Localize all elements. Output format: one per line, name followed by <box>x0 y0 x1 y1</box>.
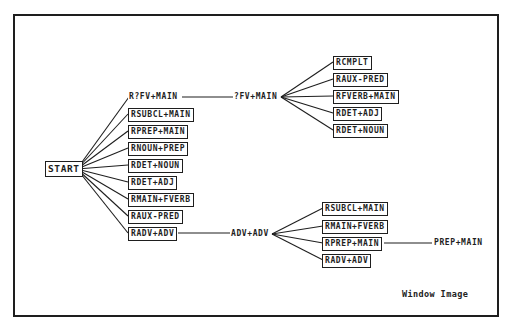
node-rdet-adj: RDET+ADJ <box>128 176 177 190</box>
node-prep-main: PREP+MAIN <box>433 237 484 249</box>
node-raux-pred: RAUX-PRED <box>128 210 183 224</box>
node-rnoun-prep: RNOUN+PREP <box>128 142 188 156</box>
node-rprep-main: RPREP+MAIN <box>128 125 188 139</box>
node-radv-adv: RADV+ADV <box>128 227 177 241</box>
node-fv-main: ?FV+MAIN <box>233 91 278 103</box>
node-start: START <box>45 161 83 177</box>
node-rcmplt: RCMPLT <box>333 56 372 70</box>
node-adv-adv: ADV+ADV <box>230 228 270 240</box>
node-r-fv-main: R?FV+MAIN <box>128 91 179 103</box>
node-rsubcl-main: RSUBCL+MAIN <box>128 108 194 122</box>
node-rmain-fverb-2: RMAIN+FVERB <box>322 220 388 234</box>
node-rdet-noun: RDET+NOUN <box>128 159 183 173</box>
node-raux-pred-2: RAUX-PRED <box>333 73 388 87</box>
node-rmain-fverb: RMAIN+FVERB <box>128 193 194 207</box>
node-rdet-adj-2: RDET+ADJ <box>333 107 382 121</box>
node-rsubcl-main-2: RSUBCL+MAIN <box>322 202 388 216</box>
node-radv-adv-2: RADV+ADV <box>322 254 371 268</box>
window-image-caption: Window Image <box>402 289 468 299</box>
node-rfverb-main: RFVERB+MAIN <box>333 90 399 104</box>
node-rprep-main-2: RPREP+MAIN <box>322 237 382 251</box>
node-rdet-noun-2: RDET+NOUN <box>333 124 388 138</box>
